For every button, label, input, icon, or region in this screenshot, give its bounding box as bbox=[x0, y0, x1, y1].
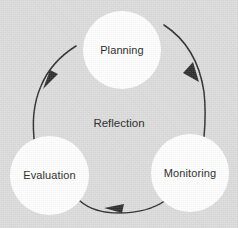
node-planning-label: Planning bbox=[100, 45, 144, 56]
reflection-cycle-diagram: Planning Monitoring Evaluation Reflectio… bbox=[0, 0, 238, 228]
arrow-evaluation-to-planning-head bbox=[43, 70, 58, 89]
node-evaluation-label: Evaluation bbox=[23, 170, 75, 181]
arrow-evaluation-to-planning-path bbox=[33, 46, 76, 146]
arrow-monitoring-to-evaluation bbox=[80, 200, 166, 213]
node-monitoring: Monitoring bbox=[151, 134, 229, 212]
node-monitoring-label: Monitoring bbox=[164, 168, 216, 179]
arrow-evaluation-to-planning bbox=[33, 46, 76, 146]
node-planning: Planning bbox=[83, 11, 161, 89]
node-evaluation: Evaluation bbox=[10, 136, 89, 215]
center-label: Reflection bbox=[0, 118, 238, 130]
